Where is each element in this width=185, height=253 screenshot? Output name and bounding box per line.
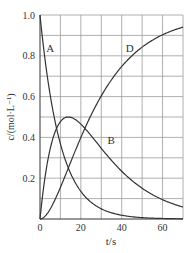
tick-labels: 02040600.20.40.60.81.0 — [23, 10, 168, 234]
y-tick-label: 0.8 — [23, 50, 36, 61]
grid-lines — [40, 15, 183, 219]
y-axis-label: c/(mol·L⁻¹) — [5, 93, 17, 140]
y-tick-label: 0.6 — [23, 91, 36, 102]
label-A: A — [46, 42, 54, 54]
chart: 02040600.20.40.60.81.0 ABD t/s c/(mol·L⁻… — [0, 0, 185, 253]
x-tick-label: 60 — [158, 222, 168, 233]
curve-labels: ABD — [46, 42, 134, 146]
y-tick-label: 0.4 — [23, 132, 36, 143]
y-tick-label: 0.2 — [23, 173, 36, 184]
curve-B — [40, 117, 183, 219]
x-tick-label: 40 — [117, 222, 127, 233]
x-tick-label: 20 — [76, 222, 86, 233]
y-tick-label: 1.0 — [23, 10, 36, 21]
x-axis-label: t/s — [106, 235, 116, 247]
label-D: D — [126, 42, 134, 54]
x-tick-label: 0 — [38, 222, 43, 233]
label-B: B — [107, 134, 114, 146]
